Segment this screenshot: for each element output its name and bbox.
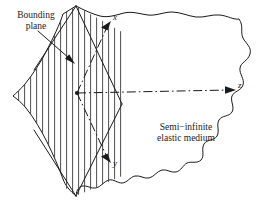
origin-point xyxy=(75,91,79,95)
figure-diagram-svg xyxy=(0,0,267,215)
figure-semi-infinite-elastic-medium: Bounding plane Semi−infinite elastic med… xyxy=(0,0,267,215)
